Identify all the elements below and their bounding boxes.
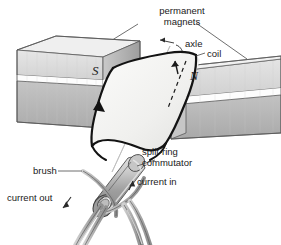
label-split-ring-line2: commutator bbox=[142, 158, 192, 169]
label-coil: coil bbox=[207, 49, 221, 60]
label-axle: axle bbox=[185, 39, 202, 50]
leader-line-coil bbox=[196, 53, 205, 56]
label-permanent-magnets: permanent magnets bbox=[149, 6, 215, 27]
label-pole-south: S bbox=[92, 63, 99, 79]
motor-diagram-artwork bbox=[0, 0, 281, 245]
label-brush: brush bbox=[33, 166, 57, 177]
label-permanent-magnets-line2: magnets bbox=[149, 17, 215, 28]
label-split-ring-commutator: split-ring commutator bbox=[142, 147, 192, 168]
label-current-in: current in bbox=[137, 177, 177, 188]
label-permanent-magnets-line1: permanent bbox=[149, 6, 215, 17]
motor-diagram: permanent magnets axle coil split-ring c… bbox=[0, 0, 281, 245]
label-current-out: current out bbox=[7, 193, 52, 204]
label-pole-north: N bbox=[190, 69, 198, 84]
current-out-arrow bbox=[63, 197, 71, 208]
label-split-ring-line1: split-ring bbox=[142, 147, 192, 158]
